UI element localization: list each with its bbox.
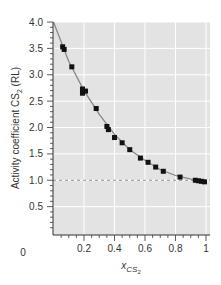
y-tick-label: 1.5 bbox=[29, 148, 43, 159]
data-point bbox=[62, 47, 67, 52]
data-point bbox=[161, 169, 166, 174]
data-point bbox=[127, 147, 132, 152]
x-axis-title: xCS2 bbox=[120, 260, 141, 275]
y-tick-label: 2.5 bbox=[29, 96, 43, 107]
data-point bbox=[69, 64, 74, 69]
x-zero-label: 0 bbox=[20, 247, 26, 258]
x-tick-label: 0.4 bbox=[108, 243, 122, 254]
y-tick-labels: 0.51.01.52.02.53.03.54.0 bbox=[29, 17, 43, 213]
x-tick-label: 0.6 bbox=[138, 243, 152, 254]
x-tick-label: 0.2 bbox=[77, 243, 91, 254]
x-axis-title-sub: CS bbox=[126, 265, 138, 274]
y-axis-title-main: Activity coefficient CS bbox=[10, 93, 21, 189]
data-point bbox=[153, 165, 158, 170]
data-point bbox=[106, 127, 111, 132]
plot-area bbox=[53, 22, 210, 235]
activity-coefficient-chart: 0.51.01.52.02.53.03.54.0 0.20.40.60.81 0… bbox=[0, 0, 221, 285]
data-point bbox=[120, 140, 125, 145]
y-tick-label: 3.0 bbox=[29, 69, 43, 80]
data-point bbox=[112, 135, 117, 140]
y-tick-label: 0.5 bbox=[29, 201, 43, 212]
y-tick-label: 3.5 bbox=[29, 43, 43, 54]
data-point bbox=[94, 106, 99, 111]
y-tick-label: 4.0 bbox=[29, 17, 43, 28]
data-point bbox=[80, 91, 85, 96]
data-point bbox=[138, 156, 143, 161]
x-tick-labels: 0.20.40.60.81 bbox=[77, 243, 209, 254]
data-point bbox=[178, 175, 183, 180]
x-tick-label: 0.8 bbox=[169, 243, 183, 254]
y-tick-label: 1.0 bbox=[29, 175, 43, 186]
y-tick-label: 2.0 bbox=[29, 122, 43, 133]
y-axis-title: Activity coefficient CS2 (RL) bbox=[10, 67, 23, 189]
x-tick-label: 1 bbox=[203, 243, 209, 254]
data-point bbox=[146, 160, 151, 165]
x-axis-title-sub2: 2 bbox=[137, 269, 141, 275]
data-point bbox=[202, 179, 207, 184]
y-axis-title-tail: (RL) bbox=[10, 67, 21, 89]
